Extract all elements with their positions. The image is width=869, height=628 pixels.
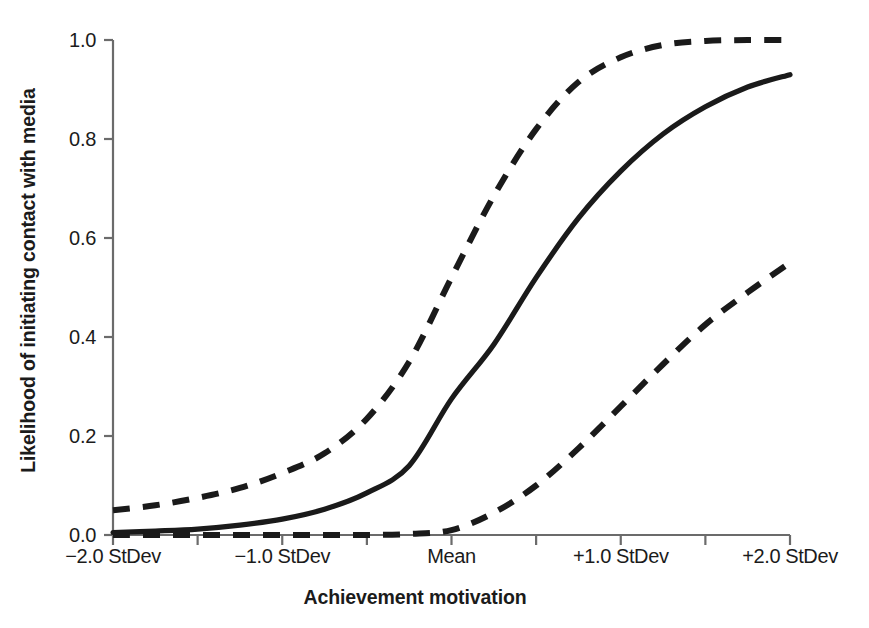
y-tick-label: 1.0 (34, 29, 96, 52)
plot-area (0, 0, 869, 628)
x-tick-label: Mean (372, 545, 532, 568)
y-tick-marks (104, 40, 113, 535)
y-tick-label: 0.2 (34, 425, 96, 448)
x-tick-label: −2.0 StDev (33, 545, 193, 568)
chart-figure: Likelihood of initiating contact with me… (0, 0, 869, 628)
y-tick-label: 0.8 (34, 128, 96, 151)
data-curves (113, 40, 790, 535)
y-tick-label: 0.0 (34, 524, 96, 547)
x-tick-label: +1.0 StDev (541, 545, 701, 568)
y-axis-title: Likelihood of initiating contact with me… (0, 0, 56, 560)
curve-series-0 (113, 75, 790, 533)
y-tick-label: 0.4 (34, 326, 96, 349)
curve-series-1 (113, 40, 790, 510)
x-tick-label: −1.0 StDev (202, 545, 362, 568)
x-tick-label: +2.0 StDev (710, 545, 869, 568)
y-tick-label: 0.6 (34, 227, 96, 250)
x-axis-title-text: Achievement motivation (0, 586, 830, 609)
